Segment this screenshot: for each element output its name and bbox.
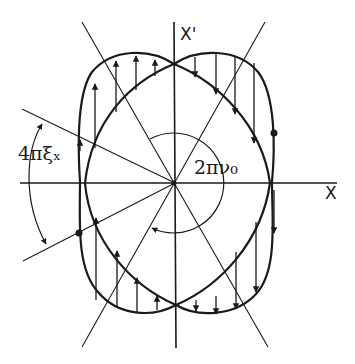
x-prime-axis-label: X' [180, 24, 196, 44]
marker-dot [271, 130, 278, 137]
phase-space-diagram: X' X 2πν₀ 4πξₓ [0, 0, 355, 364]
marker-dot [76, 230, 83, 237]
inner-left-curve [85, 64, 176, 305]
tune-angle-label: 2πν₀ [194, 156, 238, 178]
diagram-svg: X' X 2πν₀ 4πξₓ [0, 0, 355, 364]
displacement-arrows [80, 54, 274, 314]
chromatic-angle-label: 4πξₓ [18, 142, 61, 164]
x-axis-label: X [325, 183, 337, 203]
center-point [172, 181, 177, 186]
axes [20, 22, 337, 348]
radial-lines [22, 22, 268, 347]
